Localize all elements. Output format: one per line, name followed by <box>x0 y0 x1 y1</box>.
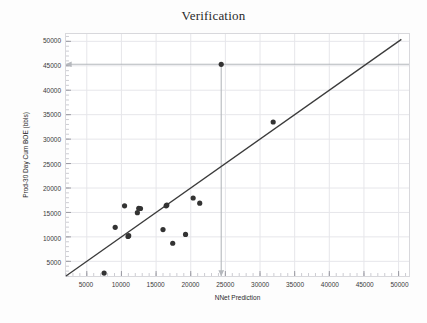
y-axis-title: Prod-30 Day Cum BOE (bbls) <box>22 112 29 198</box>
chart-title: Verification <box>0 8 427 24</box>
scatter-chart: Verification 500010000150002000025000300… <box>0 0 427 323</box>
plot-area <box>65 33 410 277</box>
x-tick-label: 50000 <box>377 281 423 288</box>
y-axis-title-wrap: Prod-30 Day Cum BOE (bbls) <box>18 33 32 277</box>
data-layer <box>66 34 409 276</box>
x-axis-title: NNet Prediction <box>65 294 410 301</box>
x-axis-tick-labels: 5000100001500020000250003000035000400004… <box>65 281 410 295</box>
